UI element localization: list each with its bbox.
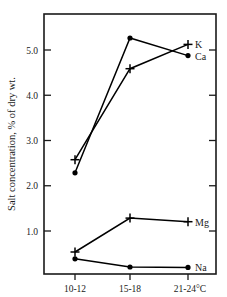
series-label-k: K bbox=[195, 39, 203, 50]
series-line-k bbox=[75, 44, 188, 159]
x-axis-ticks bbox=[75, 274, 188, 280]
chart-figure: 5.0 4.0 3.0 2.0 1.0 10-12 15-18 21-24°C … bbox=[0, 0, 227, 297]
y-tick-label-4: 4.0 bbox=[26, 91, 38, 101]
x-tick-label-21-24c: 21-24°C bbox=[174, 284, 206, 294]
series-line-ca bbox=[75, 38, 188, 173]
salt-concentration-line-chart: 5.0 4.0 3.0 2.0 1.0 10-12 15-18 21-24°C … bbox=[0, 0, 227, 297]
series-label-na: Na bbox=[195, 262, 207, 273]
x-tick-label-15-18: 15-18 bbox=[119, 284, 141, 294]
markers-ca bbox=[72, 35, 190, 175]
y-tick-label-1: 1.0 bbox=[26, 227, 38, 237]
series-label-mg: Mg bbox=[195, 217, 209, 228]
y-axis-title: Salt concentration, % of dry wt. bbox=[6, 77, 17, 211]
y-tick-label-3: 3.0 bbox=[26, 136, 38, 146]
x-tick-label-10-12: 10-12 bbox=[64, 284, 86, 294]
markers-k bbox=[71, 40, 193, 164]
y-axis-ticks-right bbox=[209, 50, 216, 231]
y-axis-ticks bbox=[44, 50, 51, 231]
y-tick-label-5: 5.0 bbox=[26, 46, 38, 56]
y-tick-label-2: 2.0 bbox=[26, 181, 38, 191]
markers-mg bbox=[71, 214, 193, 257]
series-line-mg bbox=[75, 218, 188, 252]
series-label-ca: Ca bbox=[195, 51, 207, 62]
plot-frame bbox=[44, 14, 216, 274]
